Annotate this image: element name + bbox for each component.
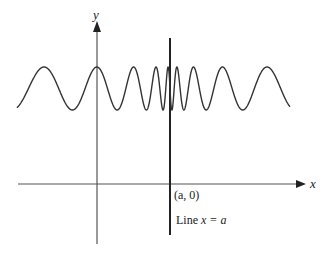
line-label-prefix: Line xyxy=(176,213,201,227)
x-axis-arrow-icon xyxy=(296,180,306,188)
oscillating-curve xyxy=(17,67,290,110)
point-label-a-0: (a, 0) xyxy=(174,188,199,203)
diagram-svg xyxy=(0,0,332,253)
line-label-equation: x = a xyxy=(201,213,226,227)
figure: y x (a, 0) Line x = a xyxy=(0,0,332,253)
x-axis-label: x xyxy=(310,176,316,192)
line-label: Line x = a xyxy=(176,213,226,228)
y-axis-label: y xyxy=(93,7,99,23)
point-label-text: (a, 0) xyxy=(174,188,199,202)
